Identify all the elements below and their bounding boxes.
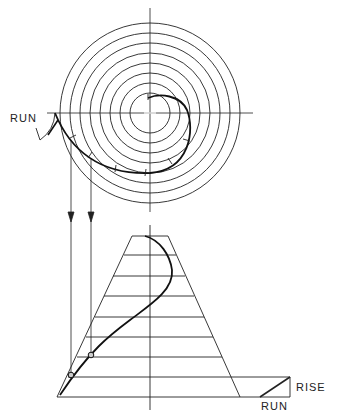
point-marker (68, 372, 74, 378)
rise-run-triangle (240, 377, 290, 397)
projection-lines (68, 140, 94, 375)
run-label-bottom: RUN (261, 400, 288, 412)
point-marker (88, 352, 94, 358)
elevation-trapezoid (57, 225, 290, 410)
helix-elevation-curve (60, 236, 172, 395)
run-label-top: RUN (10, 112, 37, 124)
run-arc (36, 113, 55, 140)
plan-view-centerlines (47, 8, 253, 212)
helix-development-diagram: RUN RISE RUN (0, 0, 339, 415)
rise-label: RISE (296, 381, 326, 393)
